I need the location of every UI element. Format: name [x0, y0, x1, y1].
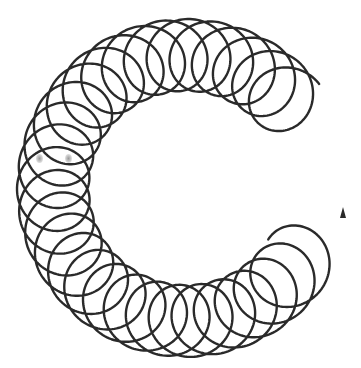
smudge-mark [36, 154, 43, 163]
coil-path [17, 19, 330, 357]
arrow-tip-icon [340, 207, 346, 218]
coiled-spring-drawing [0, 0, 361, 368]
smudge-mark [65, 154, 72, 163]
